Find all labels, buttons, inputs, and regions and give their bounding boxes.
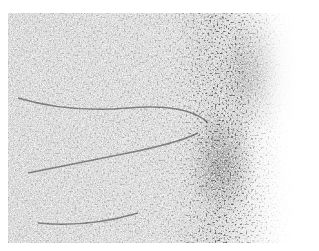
edge-fade [240,13,310,243]
microscopy-image [8,13,310,243]
